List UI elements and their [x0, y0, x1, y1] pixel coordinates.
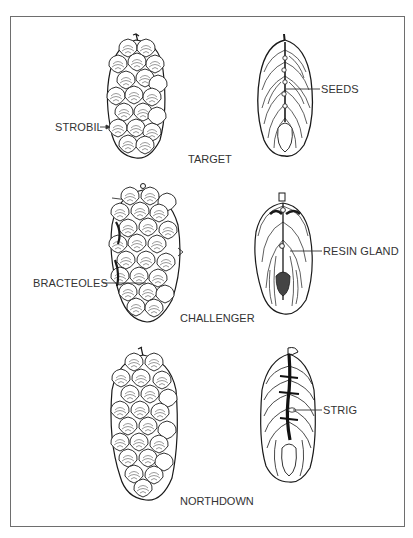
target-whole-cone	[107, 34, 167, 158]
northdown-cross-section	[261, 348, 316, 483]
label-seeds: SEEDS	[321, 83, 359, 95]
northdown-whole-cone	[111, 347, 177, 500]
caption-challenger: CHALLENGER	[180, 312, 255, 324]
label-resin-gland: RESIN GLAND	[323, 245, 399, 257]
label-bracteoles: BRACTEOLES	[33, 277, 108, 289]
target-cross-section	[258, 34, 313, 156]
label-strobil: STROBIL	[55, 121, 103, 133]
challenger-cross-section	[255, 193, 312, 314]
challenger-whole-cone	[109, 184, 183, 323]
label-strig: STRIG	[323, 404, 357, 416]
hop-cone-illustration	[0, 0, 413, 538]
caption-northdown: NORTHDOWN	[180, 495, 254, 507]
caption-target: TARGET	[188, 153, 232, 165]
